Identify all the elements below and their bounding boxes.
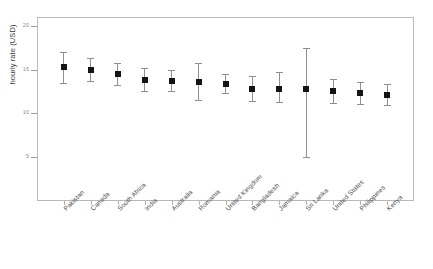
data-point-marker	[249, 86, 255, 92]
error-bar-cap-upper	[141, 68, 148, 69]
error-bar-cap-upper	[276, 72, 283, 73]
error-bar-cap-lower	[60, 83, 67, 84]
data-point-marker	[330, 88, 336, 94]
error-bar-cap-upper	[384, 84, 391, 85]
data-point-marker	[115, 71, 121, 77]
error-bar-cap-upper	[195, 63, 202, 64]
error-bar-cap-lower	[384, 105, 391, 106]
data-point-marker	[61, 64, 67, 70]
error-bar-cap-lower	[357, 104, 364, 105]
plot-area	[37, 17, 414, 201]
error-bar-cap-upper	[114, 63, 121, 64]
error-bar-cap-upper	[303, 48, 310, 49]
data-point-marker	[357, 90, 363, 96]
data-point-marker	[88, 67, 94, 73]
y-axis-tick-label: 20	[23, 22, 29, 29]
error-bar-cap-lower	[141, 91, 148, 92]
error-bar-cap-lower	[222, 93, 229, 94]
y-axis-label: hourly rate (USD)	[8, 0, 17, 115]
data-point-marker	[303, 86, 309, 92]
y-axis-tick-label: 15	[23, 66, 29, 73]
data-point-marker	[169, 78, 175, 84]
chart-figure: hourly rate (USD) 2015105 PakistanCanada…	[0, 0, 433, 269]
y-axis-tick: 10	[31, 113, 37, 114]
error-bar-cap-lower	[195, 100, 202, 101]
y-axis-tick-label: 10	[23, 109, 29, 116]
error-bar-cap-upper	[222, 74, 229, 75]
error-bar-cap-upper	[60, 52, 67, 53]
data-point-marker	[384, 92, 390, 98]
y-axis-tick: 20	[31, 26, 37, 27]
error-bar-cap-upper	[249, 76, 256, 77]
error-bar-cap-upper	[330, 79, 337, 80]
error-bar-cap-lower	[276, 102, 283, 103]
error-bar-cap-lower	[87, 81, 94, 82]
data-point-marker	[223, 81, 229, 87]
y-axis-tick-label: 5	[26, 153, 29, 160]
data-point-marker	[276, 86, 282, 92]
y-axis-tick: 15	[31, 70, 37, 71]
error-bar-cap-lower	[114, 85, 121, 86]
data-point-marker	[196, 79, 202, 85]
error-bar-cap-upper	[168, 70, 175, 71]
data-point-marker	[142, 77, 148, 83]
error-bar-cap-lower	[249, 101, 256, 102]
error-bar-cap-lower	[303, 157, 310, 158]
error-bar-line	[306, 48, 307, 158]
error-bar-cap-upper	[87, 58, 94, 59]
error-bar-cap-upper	[357, 82, 364, 83]
y-axis-tick: 5	[31, 157, 37, 158]
error-bar-cap-lower	[330, 103, 337, 104]
error-bar-cap-lower	[168, 91, 175, 92]
